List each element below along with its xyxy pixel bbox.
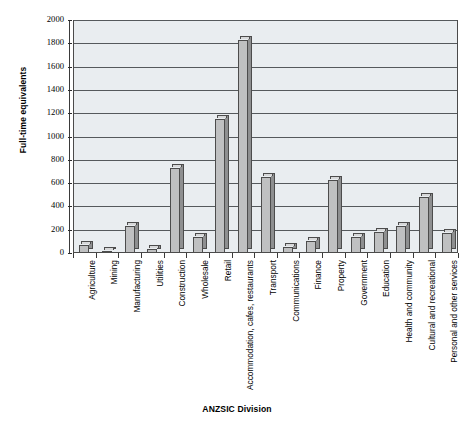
x-tick-label: Wholesale	[201, 260, 210, 299]
bar-front-face	[351, 237, 361, 253]
bar-side-face	[225, 115, 229, 249]
bar-top-face	[263, 173, 273, 176]
x-tick-label: Health and community	[405, 260, 414, 343]
bar-front-face	[238, 40, 248, 253]
bar-top-face	[376, 228, 386, 231]
x-tick-mark	[435, 253, 436, 258]
bar-top-face	[217, 115, 227, 118]
x-tick-label: Government	[360, 260, 369, 306]
x-tick-mark	[299, 253, 300, 258]
bar	[261, 173, 271, 253]
bar-top-face	[240, 36, 250, 39]
y-tick-mark	[68, 137, 72, 138]
bar-side-face	[429, 193, 433, 249]
y-tick-mark	[68, 43, 72, 44]
x-tick-mark	[186, 253, 187, 258]
x-tick-label: Property	[337, 260, 346, 291]
y-tick-label: 1400	[28, 85, 64, 94]
x-tick-label: Finance	[314, 260, 323, 290]
x-tick-label: Communications	[292, 260, 301, 322]
x-tick-mark	[322, 253, 323, 258]
bar	[283, 243, 293, 253]
x-tick-mark	[367, 253, 368, 258]
x-tick-mark	[254, 253, 255, 258]
bar	[238, 36, 248, 253]
bar	[351, 233, 361, 253]
y-tick-mark	[68, 230, 72, 231]
bar-front-face	[442, 233, 452, 253]
x-tick-mark	[458, 253, 459, 258]
bars-layer	[73, 20, 458, 253]
y-axis-title: Full-time equivalents	[18, 50, 28, 170]
bar	[419, 193, 429, 253]
x-tick-label: Personal and other services	[450, 260, 459, 363]
bar-front-face	[328, 180, 338, 253]
bar	[306, 237, 316, 253]
x-axis-title: ANZSIC Division	[0, 404, 474, 414]
y-tick-label: 400	[28, 201, 64, 210]
bar	[147, 245, 157, 253]
y-tick-label: 1800	[28, 38, 64, 47]
bar-side-face	[135, 222, 139, 249]
x-tick-mark	[390, 253, 391, 258]
y-tick-mark	[68, 67, 72, 68]
x-tick-mark	[118, 253, 119, 258]
bar-top-face	[444, 229, 454, 232]
y-tick-mark	[68, 20, 72, 21]
x-tick-mark	[277, 253, 278, 258]
y-tick-mark	[68, 160, 72, 161]
x-axis-labels: AgricultureMiningManufacturingUtilitiesC…	[73, 260, 458, 400]
x-tick-label: Construction	[178, 260, 187, 307]
bar	[170, 164, 180, 253]
bar-top-face	[308, 237, 318, 240]
bar	[374, 228, 384, 253]
bar-top-face	[330, 176, 340, 179]
bar	[79, 241, 89, 253]
bar-front-face	[193, 237, 203, 253]
y-tick-label: 600	[28, 178, 64, 187]
x-tick-label: Transport	[269, 260, 278, 295]
bar-front-face	[215, 119, 225, 253]
x-tick-mark	[345, 253, 346, 258]
y-tick-label: 2000	[28, 15, 64, 24]
y-tick-mark	[68, 183, 72, 184]
bar-front-face	[374, 232, 384, 253]
bar-top-face	[421, 193, 431, 196]
bar-front-face	[170, 168, 180, 253]
bar-front-face	[306, 241, 316, 253]
x-tick-label: Retail	[224, 260, 233, 281]
bar-top-face	[172, 164, 182, 167]
y-tick-label: 1600	[28, 62, 64, 71]
x-axis-ticks	[73, 253, 458, 259]
bar-side-face	[248, 36, 252, 249]
bar	[442, 229, 452, 253]
bar-top-face	[104, 247, 114, 250]
bar-side-face	[452, 229, 456, 249]
bar-top-face	[195, 233, 205, 236]
bar-side-face	[180, 164, 184, 249]
bar-top-face	[149, 245, 159, 248]
bar-side-face	[338, 176, 342, 249]
bar-top-face	[285, 243, 295, 246]
bar	[215, 115, 225, 253]
x-tick-mark	[96, 253, 97, 258]
x-tick-label: Agriculture	[88, 260, 97, 300]
bar-top-face	[353, 233, 363, 236]
x-tick-label: Manufacturing	[133, 260, 142, 313]
x-tick-mark	[73, 253, 74, 258]
bar-side-face	[271, 173, 275, 249]
y-tick-label: 800	[28, 155, 64, 164]
bar-top-face	[398, 222, 408, 225]
y-tick-mark	[68, 253, 72, 254]
x-tick-mark	[413, 253, 414, 258]
x-tick-mark	[209, 253, 210, 258]
bar-top-face	[81, 241, 91, 244]
y-tick-mark	[68, 206, 72, 207]
x-tick-label: Accommodation, cafes, restaurants	[246, 260, 255, 390]
x-tick-label: Cultural and recreational	[428, 260, 437, 350]
y-tick-mark	[68, 90, 72, 91]
bar	[193, 233, 203, 253]
y-tick-label: 0	[28, 248, 64, 257]
bar-side-face	[384, 228, 388, 249]
x-tick-label: Education	[382, 260, 391, 297]
